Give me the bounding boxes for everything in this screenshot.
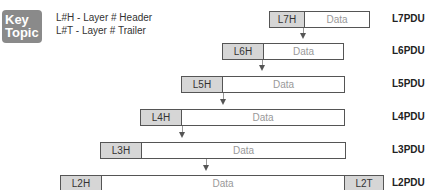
pdu-l4-data: Data [182,110,344,125]
pdu-l5-data: Data [223,77,344,92]
pdu-l5-header: L5H [182,77,223,92]
pdu-l2-data: Data [102,176,344,190]
pdu-l7-label: L7PDU [392,13,425,24]
down-arrow-icon [300,33,306,39]
pdu-l7-data: Data [305,12,369,27]
pdu-l2: L2H Data L2T [60,175,384,190]
pdu-l2-label: L2PDU [392,177,425,188]
pdu-l5: L5H Data [181,76,345,93]
down-arrow-icon [220,99,226,105]
pdu-l4: L4H Data [140,109,345,126]
pdu-l4-header: L4H [141,110,182,125]
pdu-l4-label: L4PDU [392,111,425,122]
down-arrow-icon [203,165,209,171]
pdu-l6-label: L6PDU [392,45,425,56]
pdu-l3-data: Data [142,143,345,158]
pdu-l3-label: L3PDU [392,144,425,155]
pdu-l7-header: L7H [270,12,305,27]
down-arrow-icon [259,65,265,71]
down-arrow-icon [179,132,185,138]
pdu-l3-header: L3H [101,143,142,158]
pdu-l5-label: L5PDU [392,78,425,89]
pdu-l6-data: Data [264,44,343,59]
legend-trailer: L#T - Layer # Trailer [56,25,146,36]
pdu-l6: L6H Data [222,43,344,60]
pdu-l7: L7H Data [269,11,370,28]
pdu-l3: L3H Data [100,142,346,159]
pdu-l2-trailer: L2T [344,176,383,190]
pdu-l6-header: L6H [223,44,264,59]
pdu-l2-header: L2H [61,176,102,190]
key-topic-badge: Key Topic [2,10,42,43]
legend-header: L#H - Layer # Header [56,12,152,23]
key-topic-line2: Topic [5,26,42,39]
